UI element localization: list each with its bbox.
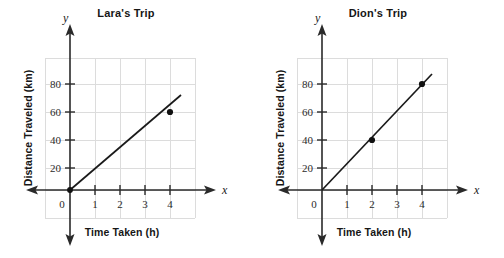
y-tick-label-80-dion: 80: [302, 78, 314, 90]
y-tick-label-20-dion: 20: [302, 162, 314, 174]
y-axis-letter-lara: y: [62, 11, 69, 25]
y-tick-label-60-lara: 60: [50, 106, 62, 118]
data-point-4-60-lara: [167, 109, 173, 115]
x-tick-label-0-lara: 0: [59, 198, 65, 210]
x-axis-title-lara: Time Taken (h): [85, 226, 160, 238]
x-tick-label-3-dion: 3: [394, 198, 400, 210]
x-axis-title-dion: Time Taken (h): [337, 226, 412, 238]
y-tick-label-60-dion: 60: [302, 106, 314, 118]
x-tick-label-4-dion: 4: [419, 198, 425, 210]
data-point-2-40-dion: [369, 137, 375, 143]
y-axis-title-lara: Distance Traveled (km): [22, 70, 34, 187]
x-axis-dion: [278, 186, 468, 195]
x-tick-label-2-lara: 2: [117, 198, 123, 210]
x-axis-letter-lara: x: [221, 183, 228, 197]
y-axis-letter-dion: y: [314, 11, 321, 25]
chart-plot-lara: y x 20 40 60 80: [0, 0, 252, 258]
chart-panel-dion: Dion's Trip y: [252, 0, 504, 258]
x-tick-label-0-dion: 0: [311, 198, 317, 210]
chart-plot-dion: y x 20 40 60 80 0: [252, 0, 504, 258]
x-tick-label-4-lara: 4: [167, 198, 173, 210]
x-tick-label-1-dion: 1: [344, 198, 350, 210]
two-chart-figure: Lara's Trip: [0, 0, 504, 258]
x-tick-label-3-lara: 3: [142, 198, 148, 210]
data-line-dion: [322, 74, 432, 190]
y-axis-lara: [66, 24, 75, 246]
data-point-origin-lara: [67, 187, 73, 193]
chart-panel-lara: Lara's Trip: [0, 0, 252, 258]
y-tick-label-80-lara: 80: [50, 78, 62, 90]
y-axis-title-dion: Distance Traveled (km): [274, 70, 286, 187]
y-tick-label-40-dion: 40: [302, 134, 314, 146]
data-point-4-80-dion: [419, 81, 425, 87]
x-tick-label-1-lara: 1: [92, 198, 98, 210]
y-tick-label-20-lara: 20: [50, 162, 62, 174]
data-line-lara: [70, 95, 181, 190]
x-axis-letter-dion: x: [473, 183, 480, 197]
x-tick-label-2-dion: 2: [369, 198, 375, 210]
x-axis-lara: [26, 186, 216, 195]
y-tick-label-40-lara: 40: [50, 134, 62, 146]
y-axis-dion: [318, 24, 327, 246]
